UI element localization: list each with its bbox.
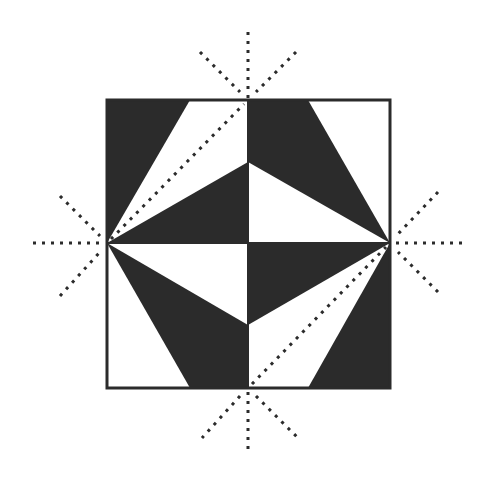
bottom-left-diagonal-fold-line	[202, 396, 240, 438]
left-upper-diagonal-fold-line	[60, 196, 100, 236]
left-lower-diagonal-fold-line	[60, 252, 100, 296]
right-lower-diagonal-fold-line	[398, 252, 438, 292]
bottom-right-diagonal-fold-line	[256, 396, 298, 438]
top-left-diagonal-fold-line	[200, 52, 240, 92]
top-right-diagonal-fold-line	[256, 52, 296, 92]
diagram-canvas	[0, 0, 490, 483]
top-right-dark-shape	[248, 100, 390, 243]
right-upper-diagonal-fold-line	[398, 192, 438, 234]
bottom-left-dark-shape	[107, 243, 248, 388]
quilt-diagram	[0, 0, 490, 483]
